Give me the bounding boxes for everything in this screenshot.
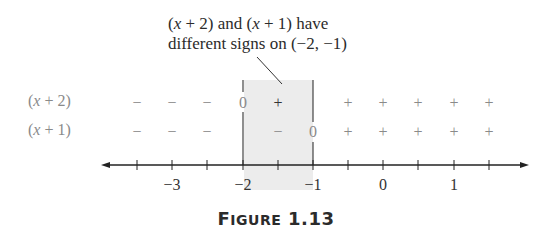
sign-row2: + bbox=[408, 123, 428, 141]
tick-label-neg3: −3 bbox=[157, 176, 187, 194]
sign-row2: + bbox=[444, 123, 464, 141]
sign-row1: − bbox=[127, 94, 147, 112]
figure-caption: FIGURE 1.13 bbox=[0, 208, 552, 229]
sign-row2: + bbox=[373, 123, 393, 141]
sign-row2: + bbox=[338, 123, 358, 141]
sign-row1: − bbox=[197, 94, 217, 112]
sign-row2: − bbox=[197, 123, 217, 141]
sign-row2: + bbox=[479, 123, 499, 141]
sign-row1: + bbox=[444, 94, 464, 112]
tick-label-neg2: −2 bbox=[228, 176, 258, 194]
tick-label-1: 1 bbox=[439, 176, 469, 194]
tick-label-0: 0 bbox=[368, 176, 398, 194]
sign-row1-zero: 0 bbox=[233, 94, 253, 112]
sign-row1: + bbox=[408, 94, 428, 112]
tick-label-neg1: −1 bbox=[298, 176, 328, 194]
annotation-line-2: different signs on (−2, −1) bbox=[168, 34, 347, 54]
sign-row1: + bbox=[268, 94, 288, 112]
left-arrow-icon bbox=[101, 162, 110, 168]
right-arrow-icon bbox=[520, 162, 529, 168]
row-label-x-plus-1: (x + 1) bbox=[28, 121, 71, 139]
row-label-x-plus-2: (x + 2) bbox=[28, 92, 71, 110]
sign-chart-figure: (x + 2) and (x + 1) have different signs… bbox=[0, 0, 552, 235]
sign-row2: − bbox=[127, 123, 147, 141]
sign-row2-zero: 0 bbox=[303, 123, 323, 141]
sign-row1: + bbox=[338, 94, 358, 112]
annotation-text: (x + 2) and (x + 1) have different signs… bbox=[168, 14, 347, 54]
sign-row1: + bbox=[373, 94, 393, 112]
annotation-leader-line bbox=[257, 57, 282, 84]
sign-row2: − bbox=[268, 123, 288, 141]
sign-row1: − bbox=[162, 94, 182, 112]
annotation-line-1: (x + 2) and (x + 1) have bbox=[168, 14, 347, 34]
sign-row1: + bbox=[479, 94, 499, 112]
sign-row2: − bbox=[162, 123, 182, 141]
